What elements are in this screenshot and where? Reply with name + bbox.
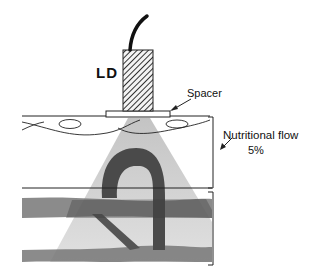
nutritional-flow-label: Nutritional flow — [223, 129, 298, 141]
upper-bracket — [208, 117, 213, 188]
spacer-plate — [106, 111, 170, 117]
papilla-right — [166, 120, 188, 128]
percent-label: 5% — [248, 144, 264, 156]
vessel-overlap — [66, 199, 212, 218]
probe-cable — [130, 16, 147, 50]
ld-probe — [123, 50, 153, 111]
flow-arrowhead — [220, 143, 226, 150]
ld-label: LD — [96, 64, 118, 81]
lower-vessel — [22, 245, 212, 262]
spacer-arrowhead — [170, 105, 178, 111]
papilla-left — [59, 120, 81, 129]
spacer-label: Spacer — [187, 87, 222, 99]
